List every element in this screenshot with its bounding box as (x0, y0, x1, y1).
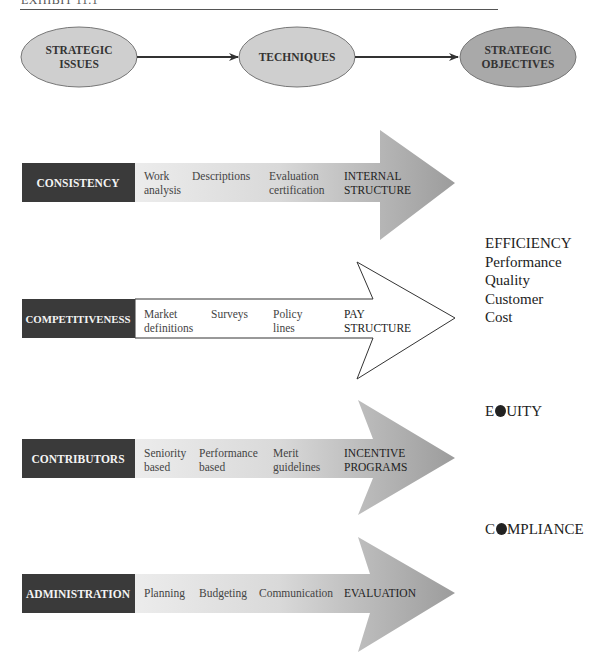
svg-text:Seniority: Seniority (144, 447, 186, 460)
flow-node-strategic-objectives: STRATEGIC OBJECTIVES (460, 27, 576, 87)
svg-text:Performance: Performance (199, 447, 258, 459)
issue-label: COMPETITIVENESS (26, 313, 131, 325)
objective-item: Customer (485, 290, 572, 309)
svg-text:STRATEGIC: STRATEGIC (485, 44, 552, 56)
row-competitiveness: COMPETITIVENESS Market definitions Surve… (22, 262, 455, 379)
svg-text:analysis: analysis (144, 184, 182, 197)
issue-label: CONSISTENCY (36, 177, 120, 189)
arrow-shape (135, 262, 455, 379)
row-administration: ADMINISTRATION Planning Budgeting Commun… (22, 537, 455, 652)
svg-text:lines: lines (273, 322, 295, 334)
compensation-strategy-diagram: STRATEGIC ISSUES TECHNIQUES STRATEGIC OB… (0, 0, 608, 667)
svg-text:Market: Market (144, 308, 178, 320)
objective-efficiency: EFFICIENCY Performance Quality Customer … (485, 234, 572, 327)
svg-text:STRUCTURE: STRUCTURE (344, 322, 411, 334)
svg-text:based: based (199, 461, 225, 473)
svg-text:Policy: Policy (273, 308, 303, 321)
svg-text:Work: Work (144, 170, 170, 182)
svg-text:STRATEGIC: STRATEGIC (46, 44, 113, 56)
objective-compliance: CMPLIANCE (485, 520, 584, 539)
svg-text:INCENTIVE: INCENTIVE (344, 447, 405, 459)
svg-text:guidelines: guidelines (273, 461, 321, 474)
blotted-letter-q (495, 405, 506, 417)
objective-item: Cost (485, 308, 572, 327)
issue-label: CONTRIBUTORS (31, 453, 124, 465)
issue-label: ADMINISTRATION (26, 588, 131, 600)
svg-text:PAY: PAY (344, 308, 366, 320)
row-consistency: CONSISTENCY Work analysis Descriptions E… (22, 130, 455, 240)
svg-text:Communication: Communication (259, 587, 333, 599)
svg-text:Evaluation: Evaluation (269, 170, 319, 182)
svg-text:Merit: Merit (273, 447, 299, 459)
objective-title: EFFICIENCY (485, 234, 572, 253)
flow-node-strategic-issues: STRATEGIC ISSUES (21, 27, 137, 87)
svg-text:certification: certification (269, 184, 325, 196)
svg-text:based: based (144, 461, 170, 473)
svg-text:Surveys: Surveys (211, 308, 249, 321)
svg-text:INTERNAL: INTERNAL (344, 170, 402, 182)
svg-text:ISSUES: ISSUES (59, 58, 99, 70)
flow-node-techniques: TECHNIQUES (239, 27, 355, 87)
svg-text:OBJECTIVES: OBJECTIVES (482, 58, 555, 70)
objective-equity: EUITY (485, 402, 542, 421)
svg-text:Budgeting: Budgeting (199, 587, 247, 600)
svg-text:PROGRAMS: PROGRAMS (344, 461, 407, 473)
row-contributors: CONTRIBUTORS Seniority based Performance… (22, 400, 455, 515)
svg-text:definitions: definitions (144, 322, 194, 334)
svg-text:EVALUATION: EVALUATION (344, 587, 417, 599)
svg-text:STRUCTURE: STRUCTURE (344, 184, 411, 196)
blotted-letter-o (496, 523, 507, 535)
svg-text:TECHNIQUES: TECHNIQUES (259, 51, 336, 63)
objective-item: Quality (485, 271, 572, 290)
svg-text:Descriptions: Descriptions (192, 170, 251, 183)
svg-text:Planning: Planning (144, 587, 185, 600)
objective-item: Performance (485, 253, 572, 272)
